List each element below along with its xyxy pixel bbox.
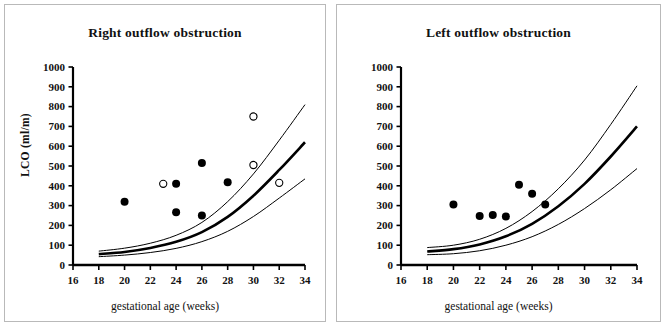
svg-text:500: 500 [49,160,66,172]
svg-text:1000: 1000 [371,61,394,73]
svg-text:500: 500 [377,160,394,172]
svg-text:700: 700 [377,120,394,132]
panel-title-right: Left outflow obstruction [337,25,660,41]
chart-panel-left-outflow: Left outflow obstruction RCO (ml/m) gest… [336,4,661,322]
svg-text:34: 34 [300,274,312,286]
svg-text:26: 26 [196,274,208,286]
svg-text:34: 34 [632,274,644,286]
svg-text:900: 900 [49,81,66,93]
svg-text:32: 32 [605,274,617,286]
svg-text:200: 200 [377,219,394,231]
svg-text:30: 30 [248,274,260,286]
svg-text:30: 30 [579,274,591,286]
svg-text:32: 32 [274,274,286,286]
y-axis-label-left: LCO (ml/m) [19,113,31,177]
svg-text:600: 600 [377,140,394,152]
svg-text:16: 16 [396,274,408,286]
svg-text:700: 700 [49,120,66,132]
svg-text:100: 100 [49,239,66,251]
svg-text:0: 0 [388,259,394,271]
svg-text:28: 28 [222,274,234,286]
svg-text:22: 22 [145,274,157,286]
svg-text:400: 400 [49,180,66,192]
svg-text:18: 18 [422,274,434,286]
figure-container: Right outflow obstruction LCO (ml/m) ges… [0,0,665,328]
svg-text:24: 24 [171,274,183,286]
svg-text:26: 26 [527,274,539,286]
svg-text:900: 900 [377,81,394,93]
svg-text:0: 0 [60,259,66,271]
svg-text:28: 28 [553,274,565,286]
panel-title-left: Right outflow obstruction [5,25,325,41]
svg-text:100: 100 [377,239,394,251]
plot-area-left: 0100200300400500600700800900100016182022… [73,67,305,265]
svg-text:300: 300 [49,199,66,211]
x-axis-label-left: gestational age (weeks) [5,300,325,312]
svg-text:22: 22 [474,274,486,286]
svg-text:600: 600 [49,140,66,152]
svg-text:800: 800 [49,100,66,112]
svg-text:18: 18 [93,274,105,286]
scatter-plot-left: 0100200300400500600700800900100016182022… [73,67,305,265]
svg-text:16: 16 [68,274,80,286]
plot-area-right: 0100200300400500600700800900100016182022… [401,67,637,265]
svg-text:800: 800 [377,100,394,112]
svg-text:400: 400 [377,180,394,192]
svg-text:20: 20 [448,274,460,286]
x-axis-label-right: gestational age (weeks) [337,300,660,312]
chart-panel-right-outflow: Right outflow obstruction LCO (ml/m) ges… [4,4,326,322]
svg-text:200: 200 [49,219,66,231]
svg-text:20: 20 [119,274,131,286]
svg-text:24: 24 [500,274,512,286]
svg-text:1000: 1000 [43,61,66,73]
scatter-plot-right: 0100200300400500600700800900100016182022… [401,67,637,265]
svg-text:300: 300 [377,199,394,211]
